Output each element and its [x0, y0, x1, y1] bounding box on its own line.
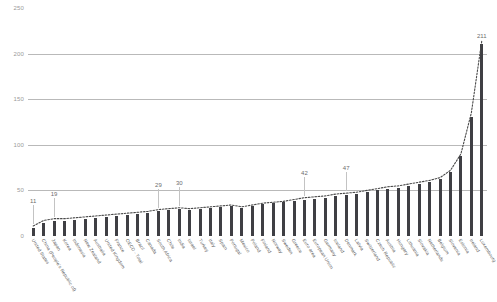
data-label-leader-line [158, 189, 159, 208]
y-axis-tick-50: 50 [17, 187, 24, 193]
data-label-text: 47 [343, 165, 350, 171]
data-label-leader-line [54, 198, 55, 217]
data-label-leader-line [346, 172, 347, 191]
y-axis-tick-0: 0 [20, 233, 24, 239]
data-label-text: 19 [51, 191, 58, 197]
y-axis-tick-150: 150 [13, 96, 24, 102]
data-label-leader-line [304, 177, 305, 196]
x-axis-category-label: Spain [218, 238, 229, 251]
y-axis-tick-200: 200 [13, 51, 24, 57]
x-axis-category-label: Chile [166, 238, 176, 250]
plot-area: 050100150200250 111929304247211 [28, 8, 487, 236]
data-label-text: 211 [477, 33, 487, 39]
data-label-text: 11 [30, 198, 36, 204]
data-label-text: 42 [301, 170, 308, 176]
x-axis-category-label: Israel [187, 238, 198, 251]
x-axis-category-label: Luxembourg [479, 238, 497, 263]
line-series-group [28, 8, 487, 236]
dotted-line-path [28, 8, 487, 236]
data-label-leader-line [33, 205, 34, 224]
x-axis-category-label: Italy [208, 238, 217, 248]
data-label-leader-line [179, 187, 180, 206]
y-axis-tick-250: 250 [13, 5, 24, 11]
data-label-text: 29 [155, 182, 162, 188]
data-label-text: 30 [176, 180, 183, 186]
y-axis-tick-100: 100 [13, 142, 24, 148]
category-labels-group: United StatesChina (People's Republic of… [28, 238, 487, 302]
x-axis-category-label: India [176, 238, 186, 250]
